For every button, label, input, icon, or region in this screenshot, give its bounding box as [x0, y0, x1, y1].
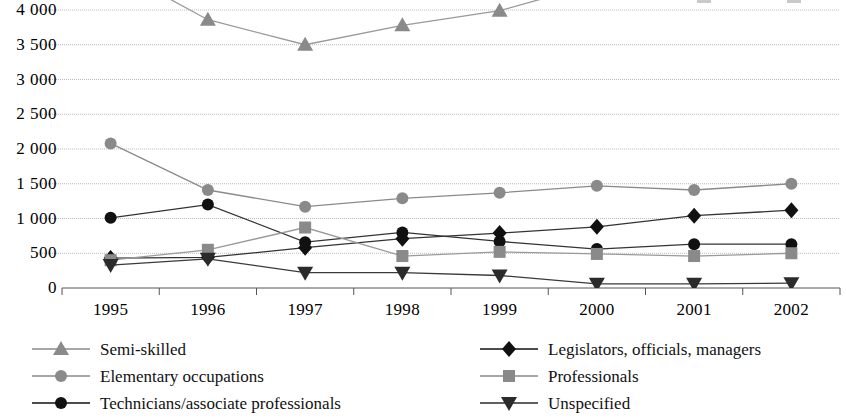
legend-marker-diamond-icon — [478, 339, 540, 359]
data-point-circle — [105, 137, 117, 149]
data-point-square — [591, 248, 603, 260]
data-point-triangle-down — [297, 267, 313, 281]
clipped-legend-square — [787, 0, 801, 3]
data-point-triangle-down — [783, 277, 799, 291]
y-tick-label: 1 500 — [0, 175, 57, 192]
x-tick-label: 1998 — [354, 301, 451, 318]
series-0 — [103, 0, 800, 51]
data-point-circle — [202, 184, 214, 196]
y-tick-label: 500 — [0, 244, 57, 261]
legend-marker-triangle-down-icon — [478, 393, 540, 413]
data-point-triangle-up — [200, 12, 216, 26]
legend-label: Elementary occupations — [100, 368, 264, 385]
legend-item[interactable]: Unspecified — [478, 390, 630, 416]
data-point-triangle-down — [501, 397, 517, 411]
x-tick-label: 1999 — [451, 301, 548, 318]
x-tick-label: 1995 — [62, 301, 159, 318]
legend-marker-circle-icon — [30, 393, 92, 413]
legend-label: Unspecified — [548, 395, 630, 412]
data-point-square — [494, 246, 506, 258]
legend-marker-square-icon — [478, 366, 540, 386]
clipped-legend-square — [697, 0, 711, 3]
clipped-legend-markers — [697, 0, 801, 3]
x-tick-label: 1997 — [257, 301, 354, 318]
y-tick-label: 4 000 — [0, 1, 57, 18]
data-point-circle — [202, 199, 214, 211]
legend-marker-circle-icon — [30, 366, 92, 386]
data-point-circle — [55, 370, 67, 382]
data-point-circle — [688, 238, 700, 250]
data-point-square — [688, 250, 700, 262]
data-point-square — [785, 247, 797, 259]
legend-item[interactable]: Professionals — [478, 363, 639, 389]
data-point-square — [299, 222, 311, 234]
data-point-circle — [105, 212, 117, 224]
legend-label: Legislators, officials, managers — [548, 341, 761, 358]
data-point-triangle-down — [686, 278, 702, 292]
series-layer — [103, 0, 800, 292]
y-tick-label: 3 500 — [0, 36, 57, 53]
data-point-triangle-up — [53, 341, 69, 355]
data-point-circle — [299, 201, 311, 213]
chart-legend: Semi-skilledLegislators, officials, mana… — [0, 336, 846, 420]
x-tick-label: 1996 — [159, 301, 256, 318]
legend-item[interactable]: Legislators, officials, managers — [478, 336, 761, 362]
y-tick-label: 2 500 — [0, 105, 57, 122]
axis-lines — [62, 288, 840, 295]
legend-item[interactable]: Semi-skilled — [30, 336, 186, 362]
legend-label: Professionals — [548, 368, 639, 385]
data-point-circle — [688, 184, 700, 196]
legend-label: Semi-skilled — [100, 341, 186, 358]
x-tick-label: 2000 — [548, 301, 645, 318]
y-tick-label: 2 000 — [0, 140, 57, 157]
y-tick-label: 0 — [0, 279, 57, 296]
y-tick-label: 1 000 — [0, 210, 57, 227]
x-tick-label: 2002 — [743, 301, 840, 318]
data-point-triangle-down — [589, 278, 605, 292]
data-point-circle — [494, 187, 506, 199]
data-point-triangle-down — [394, 267, 410, 281]
legend-item[interactable]: Elementary occupations — [30, 363, 264, 389]
data-point-square — [396, 250, 408, 262]
line-chart: 4 0003 5003 0002 5002 0001 5001 0005000 … — [0, 0, 846, 420]
legend-marker-triangle-up-icon — [30, 339, 92, 359]
data-point-square — [503, 370, 515, 382]
data-point-circle — [785, 178, 797, 190]
gridlines — [38, 10, 840, 288]
data-point-circle — [55, 397, 67, 409]
data-point-diamond — [687, 208, 701, 224]
legend-label: Technicians/associate professionals — [100, 395, 341, 412]
data-point-diamond — [502, 341, 516, 357]
data-point-circle — [591, 180, 603, 192]
data-point-diamond — [784, 202, 798, 218]
x-tick-label: 2001 — [646, 301, 743, 318]
y-tick-label: 3 000 — [0, 71, 57, 88]
legend-item[interactable]: Technicians/associate professionals — [30, 390, 341, 416]
data-point-circle — [396, 192, 408, 204]
data-point-diamond — [590, 219, 604, 235]
